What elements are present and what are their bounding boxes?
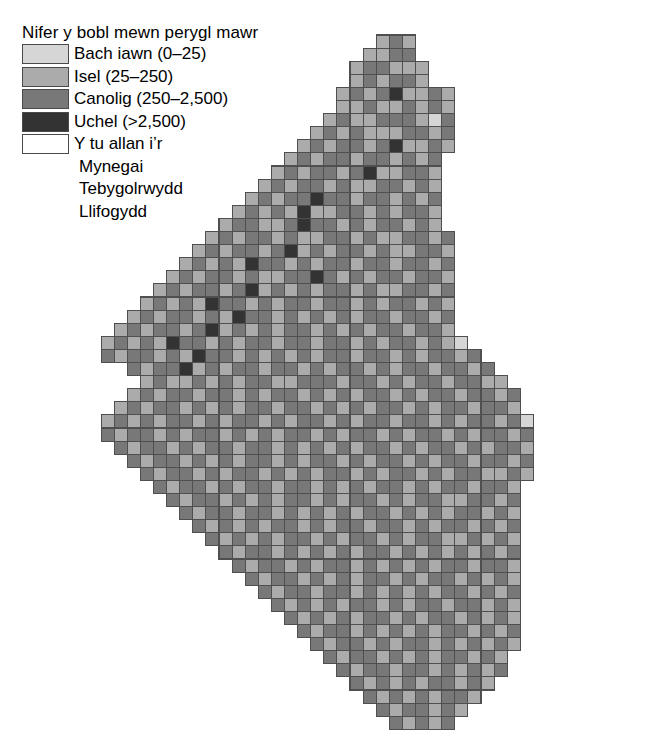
map-cell <box>363 363 376 376</box>
map-cell <box>285 520 298 533</box>
map-cell <box>363 271 376 284</box>
map-cell <box>402 179 415 192</box>
map-cell <box>350 271 363 284</box>
map-cell <box>389 35 402 48</box>
map-cell <box>494 559 507 572</box>
map-cell <box>363 336 376 349</box>
map-cell <box>416 611 429 624</box>
legend-item-low: Isel (25–250) <box>22 66 258 89</box>
map-cell <box>285 153 298 166</box>
map-cell <box>494 651 507 664</box>
map-cell <box>127 402 140 415</box>
map-cell <box>494 402 507 415</box>
map-cell <box>389 664 402 677</box>
map-cell <box>285 441 298 454</box>
map-cell <box>298 192 311 205</box>
map-cell <box>337 494 350 507</box>
map-cell <box>127 415 140 428</box>
map-cell <box>311 585 324 598</box>
map-cell <box>455 467 468 480</box>
map-cell <box>376 245 389 258</box>
map-cell <box>376 192 389 205</box>
map-cell <box>298 520 311 533</box>
map-cell <box>468 349 481 362</box>
map-cell <box>494 467 507 480</box>
map-cell <box>219 480 232 493</box>
map-cell <box>193 480 206 493</box>
map-cell <box>350 376 363 389</box>
map-cell <box>337 140 350 153</box>
map-cell <box>416 441 429 454</box>
map-cell <box>416 585 429 598</box>
map-cell <box>416 638 429 651</box>
map-cell <box>416 166 429 179</box>
map-cell <box>520 441 533 454</box>
map-cell <box>324 192 337 205</box>
map-cell <box>389 284 402 297</box>
map-cell <box>429 546 442 559</box>
map-cell <box>429 284 442 297</box>
map-cell <box>298 533 311 546</box>
map-cell <box>167 415 180 428</box>
map-cell <box>311 402 324 415</box>
map-cell <box>389 310 402 323</box>
map-cell <box>494 415 507 428</box>
map-cell <box>298 585 311 598</box>
map-cell <box>429 166 442 179</box>
map-cell <box>298 428 311 441</box>
map-cell <box>311 245 324 258</box>
map-cell <box>337 349 350 362</box>
map-cell <box>363 166 376 179</box>
map-cell <box>389 297 402 310</box>
map-cell <box>402 559 415 572</box>
map-cell <box>376 559 389 572</box>
map-cell <box>245 389 258 402</box>
map-cell <box>363 480 376 493</box>
map-cell <box>206 336 219 349</box>
map-cell <box>416 153 429 166</box>
map-cell <box>206 402 219 415</box>
map-cell <box>481 559 494 572</box>
map-figure: Nifer y bobl mewn perygl mawr Bach iawn … <box>0 0 657 732</box>
map-cell <box>232 428 245 441</box>
map-cell <box>232 232 245 245</box>
map-cell <box>402 677 415 690</box>
map-cell <box>429 494 442 507</box>
map-cell <box>507 533 520 546</box>
map-cell <box>389 690 402 703</box>
map-cell <box>258 507 271 520</box>
map-cell <box>416 232 429 245</box>
map-cell <box>442 402 455 415</box>
map-cell <box>416 651 429 664</box>
map-cell <box>127 441 140 454</box>
legend-label-outside-line2: Mynegai <box>79 156 258 179</box>
map-cell <box>429 389 442 402</box>
map-cell <box>258 454 271 467</box>
map-cell <box>363 140 376 153</box>
map-cell <box>232 271 245 284</box>
map-cell <box>416 677 429 690</box>
map-cell <box>258 297 271 310</box>
map-cell <box>429 87 442 100</box>
map-cell <box>402 35 415 48</box>
map-cell <box>350 402 363 415</box>
map-cell <box>416 218 429 231</box>
map-cell <box>285 611 298 624</box>
map-cell <box>376 520 389 533</box>
map-cell <box>402 205 415 218</box>
map-cell <box>114 349 127 362</box>
map-cell <box>154 323 167 336</box>
map-cell <box>429 415 442 428</box>
map-cell <box>429 598 442 611</box>
map-cell <box>206 441 219 454</box>
map-cell <box>442 677 455 690</box>
map-cell <box>285 598 298 611</box>
map-cell <box>324 559 337 572</box>
map-cell <box>350 114 363 127</box>
map-cell <box>324 205 337 218</box>
map-cell <box>429 140 442 153</box>
map-cell <box>219 389 232 402</box>
map-cell <box>350 258 363 271</box>
map-cell <box>180 336 193 349</box>
map-cell <box>193 441 206 454</box>
